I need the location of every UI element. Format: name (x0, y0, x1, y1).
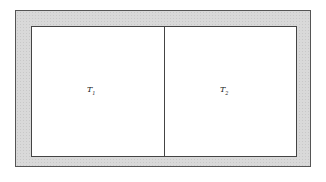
inner-region: T1 T2 (31, 26, 297, 157)
region-label-t2: T2 (220, 85, 229, 96)
region-label-t1: T1 (87, 85, 96, 96)
divider-line (164, 27, 165, 156)
